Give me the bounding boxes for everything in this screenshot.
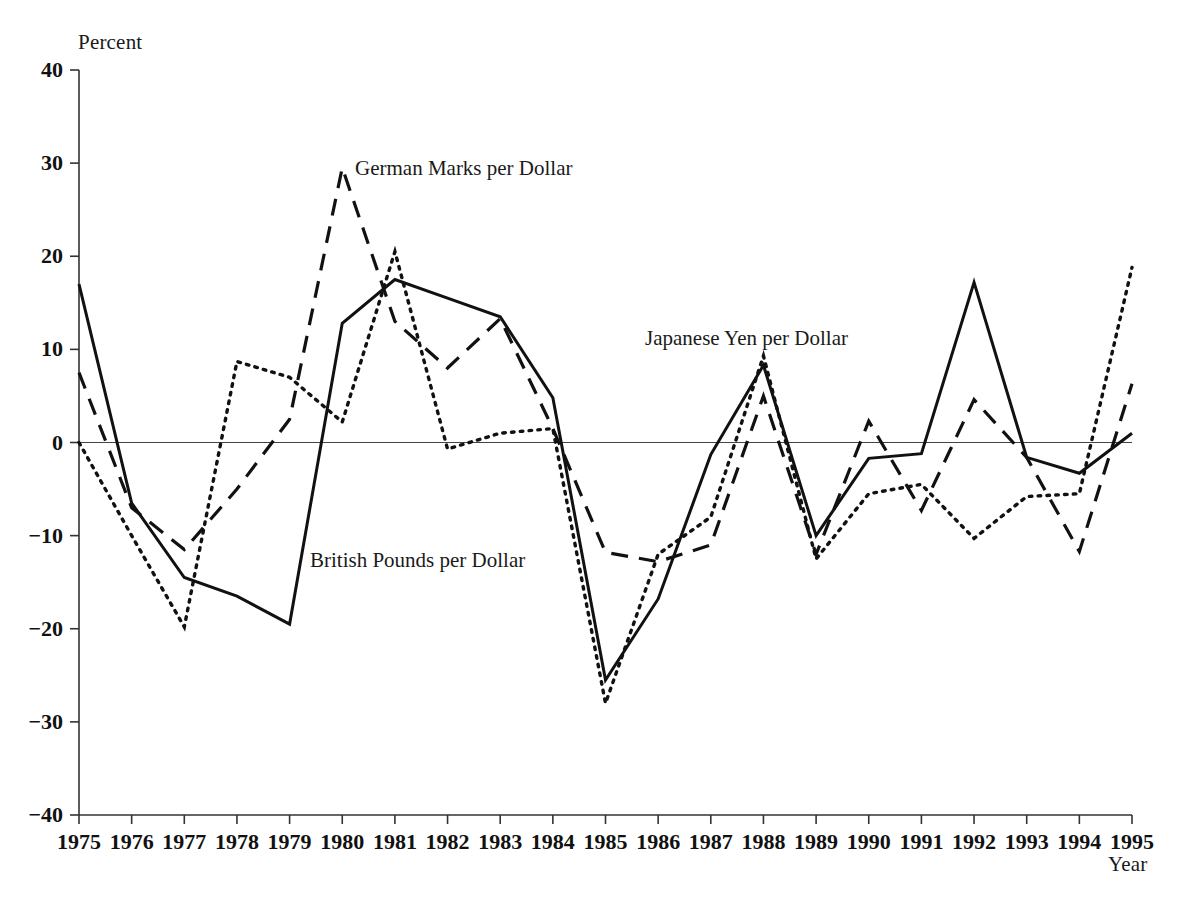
series-line-solid (79, 280, 1132, 680)
x-axis-ticks (79, 815, 1132, 824)
x-tick-label: 1977 (162, 829, 206, 855)
y-axis-title: Percent (78, 30, 142, 55)
x-tick-label: 1995 (1110, 829, 1154, 855)
y-tick-label: 40 (0, 57, 63, 83)
series-label-japanese-yen: Japanese Yen per Dollar (645, 326, 848, 351)
y-tick-label: −20 (0, 616, 63, 642)
x-tick-label: 1993 (1005, 829, 1049, 855)
x-tick-label: 1985 (584, 829, 628, 855)
x-tick-label: 1976 (110, 829, 154, 855)
x-tick-label: 1989 (794, 829, 838, 855)
x-tick-label: 1983 (478, 829, 522, 855)
x-tick-label: 1980 (320, 829, 364, 855)
x-tick-label: 1975 (57, 829, 101, 855)
x-tick-label: 1994 (1057, 829, 1101, 855)
x-axis-title: Year (1108, 852, 1148, 877)
x-tick-label: 1981 (373, 829, 417, 855)
x-tick-label: 1986 (636, 829, 680, 855)
y-tick-label: −30 (0, 709, 63, 735)
y-tick-label: 0 (0, 430, 63, 456)
data-series-group (79, 168, 1132, 703)
plot-area (0, 0, 1180, 906)
x-tick-label: 1979 (268, 829, 312, 855)
series-line-dashed (79, 168, 1132, 562)
y-tick-label: −10 (0, 523, 63, 549)
x-tick-label: 1990 (847, 829, 891, 855)
series-label-british-pounds: British Pounds per Dollar (310, 548, 525, 573)
y-tick-label: 10 (0, 336, 63, 362)
exchange-rate-line-chart: Percent Year German Marks per Dollar Bri… (0, 0, 1180, 906)
x-tick-label: 1984 (531, 829, 575, 855)
series-line-dotted (79, 252, 1132, 704)
x-tick-label: 1992 (952, 829, 996, 855)
y-tick-label: −40 (0, 802, 63, 828)
x-tick-label: 1988 (741, 829, 785, 855)
y-tick-label: 20 (0, 243, 63, 269)
series-label-german-marks: German Marks per Dollar (355, 156, 573, 181)
x-tick-label: 1987 (689, 829, 733, 855)
x-tick-label: 1978 (215, 829, 259, 855)
y-tick-label: 30 (0, 150, 63, 176)
x-tick-label: 1991 (899, 829, 943, 855)
axis-lines (79, 70, 1132, 815)
x-tick-label: 1982 (426, 829, 470, 855)
